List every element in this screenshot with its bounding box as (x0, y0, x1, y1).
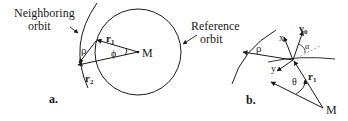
phi-arc (125, 48, 127, 55)
x-label: x (279, 32, 284, 43)
neighboring-orbit-arc-b (232, 30, 276, 84)
x-axis-arrow (284, 37, 293, 60)
y-label: y (271, 63, 276, 74)
rho-vector-b (243, 52, 293, 60)
neighboring-orbit-label: Neighboring (14, 6, 75, 20)
r1-label: r1 (106, 32, 115, 46)
reference-orbit-label: Reference (191, 19, 240, 33)
mass-label: M (142, 46, 153, 60)
mass-point (137, 51, 140, 54)
v0-label: v0 (299, 23, 308, 36)
orbit-diagram: Neighboring orbit r1 r2 ρ ϕ M a. Referen… (0, 0, 348, 121)
reference-orbit-annotation: Reference orbit (183, 19, 240, 46)
panel-a: Neighboring orbit r1 r2 ρ ϕ M a. (14, 3, 181, 106)
caption-b: b. (246, 93, 256, 107)
reference-pointer-arrow (183, 35, 197, 44)
neighboring-orbit-label-2: orbit (28, 19, 51, 33)
phi-label: ϕ (111, 48, 116, 59)
r1-label-b: r1 (308, 70, 317, 84)
caption-a: a. (49, 92, 58, 106)
reference-orbit-label-2: orbit (200, 32, 223, 46)
theta-arc (296, 80, 305, 94)
theta-label: θ (292, 76, 297, 87)
r2-vector (78, 52, 138, 65)
alpha-label: α (305, 42, 310, 51)
mass-label-b: M (326, 103, 337, 117)
rho-label-b: ρ (256, 42, 262, 54)
panel-b: ρ x v0 α y θ r1 M b. (232, 23, 337, 117)
rho-label: ρ (81, 44, 87, 56)
r1-vector (97, 40, 138, 52)
reference-orbit-arc-b (268, 58, 335, 62)
y-axis-arrow (277, 60, 293, 71)
neighboring-pointer-arrow (70, 27, 78, 33)
r2-label: r2 (85, 72, 94, 86)
